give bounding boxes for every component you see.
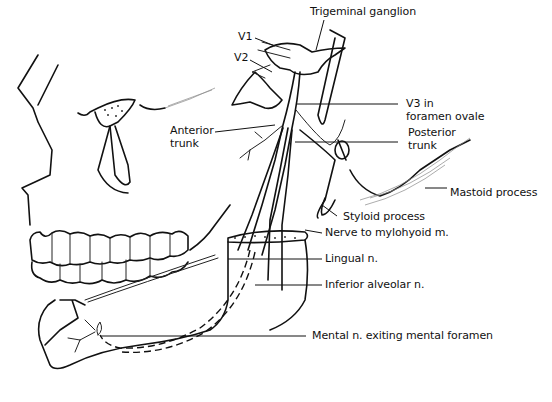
label-posterior-trunk-line2: trunk [408,140,437,152]
label-mental-nerve: Mental n. exiting mental foramen [312,330,493,342]
label-v3-line2: foramen ovale [406,111,484,123]
label-v2: V2 [234,52,248,64]
label-inferior-alveolar-nerve: Inferior alveolar n. [325,279,424,291]
label-trigeminal-ganglion: Trigeminal ganglion [310,6,416,18]
label-v3-line1: V3 in [406,98,434,110]
label-styloid-process: Styloid process [343,211,425,223]
label-anterior-trunk-line1: Anterior [170,125,214,137]
label-v1: V1 [238,31,252,43]
label-nerve-to-mylohyoid: Nerve to mylohyoid m. [325,227,449,239]
label-mastoid-process: Mastoid process [450,187,537,199]
label-lingual-nerve: Lingual n. [325,253,378,265]
label-anterior-trunk-line2: trunk [170,138,199,150]
anatomy-diagram: Trigeminal ganglion V1 V2 V3 in foramen … [0,0,552,402]
label-posterior-trunk-line1: Posterior [408,127,456,139]
